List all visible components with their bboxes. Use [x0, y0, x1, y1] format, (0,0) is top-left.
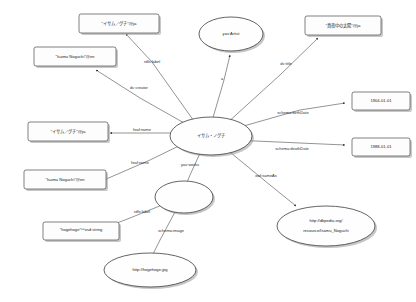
edge-schema-image [152, 212, 175, 256]
node-birth-date[interactable]: 1904-01-01 [352, 92, 412, 112]
edge-label-yav-works: yav:works [181, 162, 199, 167]
edge-label-schema-death-date: schema:deathDate [275, 146, 309, 151]
edge-label-schema-image: schema:image [158, 228, 185, 233]
diagram-canvas: rdfs:label dc:creator foaf:name foaf:nam… [0, 0, 416, 302]
rdf-graph-svg: rdfs:label dc:creator foaf:name foaf:nam… [0, 0, 416, 302]
node-center-subject-text: イサム・ノグチ [197, 132, 225, 139]
node-center-subject[interactable]: イサム・ノグチ [170, 117, 254, 157]
edge-schema-birth-date [233, 103, 345, 129]
node-image-url-text: http://hogehoge.jpg [132, 267, 168, 272]
node-dbpedia-resource[interactable]: http://dbpedia.org/ resource/Isamu_Noguc… [277, 206, 377, 248]
node-label-ja-top-text: "イサム／グチ"@ja [102, 20, 137, 27]
node-name-ja-text: "イサム／グチ"@ja [51, 128, 86, 135]
edge-label-rdfs-label-image: rdfs:label [134, 209, 150, 214]
edge-label-foaf-name-2: foaf:name [131, 160, 150, 165]
node-name-en-text: "Isamu Noguchi"@en [46, 177, 86, 182]
edge-label-schema-birth-date: schema:birthDate [277, 110, 309, 115]
node-death-date-text: 1988-01-01 [371, 144, 393, 149]
node-work-blank[interactable] [155, 181, 215, 215]
node-label-en-upper[interactable]: "Isamu Noguchi"@en [34, 47, 118, 68]
node-dbpedia-resource-line1: http://dbpedia.org/ [309, 218, 343, 223]
edge-label-dc-title: dc:title [280, 61, 292, 66]
node-work-title-ja[interactable]: "真夜中の太陽"@ja [305, 16, 383, 37]
node-type-artist-text: yav:Artist [223, 31, 241, 36]
node-name-ja[interactable]: "イサム／グチ"@ja [28, 122, 110, 143]
node-label-en-upper-text: "Isamu Noguchi"@en [56, 54, 96, 59]
node-name-en[interactable]: "Isamu Noguchi"@en [24, 170, 108, 191]
edge-label-rdfs-label-top: rdfs:label [144, 59, 160, 64]
node-image-label[interactable]: "hogehoge"^^xsd:string [43, 222, 121, 242]
node-dbpedia-resource-line2: resource/Isamu_Noguchi [303, 228, 349, 233]
node-type-artist[interactable]: yav:Artist [199, 17, 265, 53]
edge-rdf-type [212, 55, 230, 121]
node-birth-date-text: 1904-01-01 [371, 98, 393, 103]
node-image-url[interactable]: http://hogehoge.jpg [104, 253, 198, 289]
edge-label-dc-creator: dc:creator [130, 85, 148, 90]
node-work-title-ja-text: "真夜中の太陽"@ja [326, 22, 361, 29]
node-death-date[interactable]: 1988-01-01 [352, 138, 412, 158]
node-image-label-text: "hogehoge"^^xsd:string [60, 227, 103, 232]
edge-label-rdf-type: a [221, 76, 224, 81]
edge-label-owl-same-as: owl:sameAs [255, 173, 277, 178]
edge-rdfs-label-top [126, 34, 196, 124]
edge-label-foaf-name-1: foaf:name [133, 127, 152, 132]
node-label-ja-top[interactable]: "イサム／グチ"@ja [79, 14, 161, 35]
